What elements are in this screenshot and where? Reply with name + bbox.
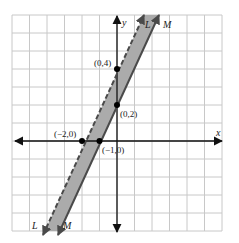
- line-L-top-label: L: [144, 19, 151, 30]
- shaded-band: [43, 15, 159, 235]
- point-neg2-0-label: (−2,0): [54, 129, 76, 139]
- point-0-4: [114, 66, 120, 72]
- line-L: [43, 15, 144, 235]
- line-L-bottom-label: L: [31, 220, 38, 231]
- point-neg1-0-label: (−1,0): [102, 145, 124, 155]
- point-neg2-0: [79, 138, 85, 144]
- line-M: [58, 15, 159, 235]
- point-0-2-label: (0,2): [120, 109, 137, 119]
- x-axis-label: x: [215, 127, 221, 138]
- point-neg1-0: [97, 138, 103, 144]
- line-M-bottom-label: M: [62, 220, 72, 231]
- coordinate-graph: x y L M L M (0,4) (0,2) (−2,0) (−1,0): [0, 0, 239, 243]
- point-0-2: [114, 102, 120, 108]
- point-0-4-label: (0,4): [94, 58, 111, 68]
- y-axis-label: y: [121, 17, 127, 28]
- line-M-top-label: M: [162, 19, 172, 30]
